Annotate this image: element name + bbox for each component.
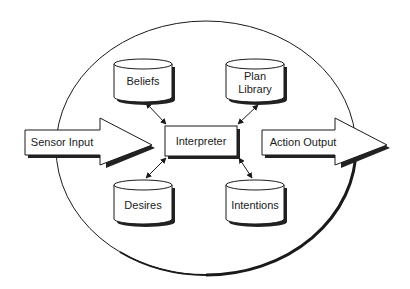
interpreter-box: Interpreter	[165, 126, 240, 159]
plan-library-interpreter-arrow	[238, 105, 258, 124]
sensor-input-arrow: Sensor Input	[25, 118, 155, 168]
intentions-interpreter-arrow	[239, 158, 252, 178]
intentions-label: Intentions	[231, 199, 279, 211]
plan-library-label-line-2: Library	[238, 83, 272, 95]
plan-library-store: Plan Library	[226, 59, 287, 105]
interpreter-label: Interpreter	[176, 135, 227, 147]
beliefs-label: Beliefs	[126, 75, 160, 87]
sensor-input-label: Sensor Input	[31, 136, 93, 148]
desires-label: Desires	[124, 199, 162, 211]
desires-store: Desires	[114, 180, 175, 227]
beliefs-interpreter-arrow	[146, 103, 166, 124]
beliefs-store: Beliefs	[114, 59, 175, 105]
action-output-arrow: Action Output	[262, 118, 390, 168]
desires-interpreter-arrow	[146, 158, 166, 178]
intentions-store: Intentions	[226, 180, 287, 227]
plan-library-label-line-1: Plan	[244, 70, 266, 82]
action-output-label: Action Output	[270, 136, 337, 148]
bdi-architecture-diagram: Sensor Input Action Output Interpreter B…	[0, 0, 410, 289]
